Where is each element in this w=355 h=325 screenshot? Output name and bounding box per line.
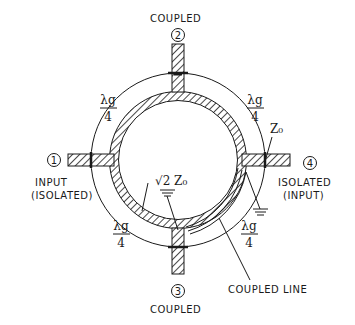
ring-impedance-label: √2 Z₀ — [155, 174, 187, 188]
lambda-label-bottom-left: λg 4 — [113, 219, 130, 250]
svg-text:4: 4 — [117, 236, 125, 250]
hatched-ring — [110, 92, 247, 229]
stub-port-2 — [172, 44, 184, 92]
port-4-name: ISOLATED — [278, 177, 331, 188]
svg-text:λg: λg — [113, 219, 129, 233]
lambda-label-top-left: λg 4 — [100, 93, 117, 124]
port-3-number: 3 — [175, 286, 181, 297]
port-2-number: 2 — [175, 30, 181, 41]
svg-text:λg: λg — [247, 93, 263, 107]
port-stubs — [68, 44, 290, 274]
lambda-label-bottom-right: λg 4 — [241, 219, 258, 250]
port-4-number: 4 — [307, 158, 313, 169]
svg-text:4: 4 — [104, 110, 112, 124]
port-2-name: COUPLED — [150, 13, 201, 24]
stub-port-3 — [172, 228, 184, 274]
ground-icon — [246, 172, 268, 215]
coupled-line-label: COUPLED LINE — [228, 284, 307, 295]
svg-text:4: 4 — [245, 236, 253, 250]
port-impedance-label: Z₀ — [270, 122, 283, 136]
port-1-name: INPUT — [35, 177, 68, 188]
lambda-label-top-right: λg 4 — [247, 93, 264, 124]
port-1-alt: (ISOLATED) — [31, 190, 93, 201]
svg-text:λg: λg — [100, 93, 116, 107]
svg-text:4: 4 — [251, 110, 259, 124]
coupler-diagram: COUPLED 2 1 INPUT (ISOLATED) 4 ISOLATED … — [0, 0, 355, 325]
port-3-name: COUPLED — [150, 304, 201, 315]
svg-text:λg: λg — [241, 219, 257, 233]
port-1-number: 1 — [51, 155, 57, 166]
port-4-alt: (INPUT) — [283, 190, 324, 201]
